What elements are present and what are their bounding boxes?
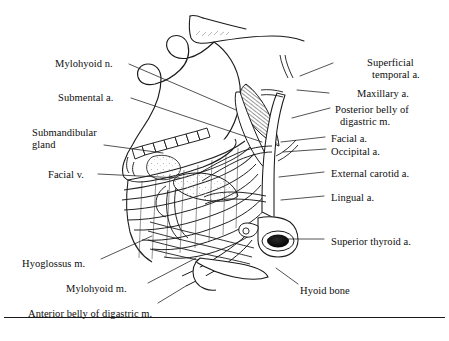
occipital-artery xyxy=(276,140,298,161)
label-lingual-a: Lingual a. xyxy=(331,192,374,204)
label-hyoglossus-m: Hyoglossus m. xyxy=(22,258,85,270)
superior-thyroid-artery xyxy=(239,223,258,237)
leader-hyoid-bone xyxy=(276,268,298,284)
anatomical-figure: Mylohyoid n. Submental a. Submandibular … xyxy=(0,0,449,341)
hyoid-bone xyxy=(193,258,268,290)
tongue-base xyxy=(174,173,239,201)
skull-texture xyxy=(196,31,229,36)
label-submandibular-gland-line1: Submandibular xyxy=(32,127,97,139)
leader-facial-a xyxy=(281,137,325,142)
leader-anterior-belly-digastric xyxy=(158,286,186,303)
label-posterior-belly-digastric-line2: digastric m. xyxy=(340,116,390,128)
mandible-and-ramus xyxy=(133,35,240,144)
leader-external-carotid-a xyxy=(279,172,324,177)
carotid-artery-cut-end xyxy=(258,217,298,257)
label-superficial-temporal-a-line2: temporal a. xyxy=(372,69,420,81)
leader-lingual-a xyxy=(281,196,324,200)
label-submental-a: Submental a. xyxy=(58,92,113,104)
submandibular-gland xyxy=(147,155,181,179)
label-external-carotid-a: External carotid a. xyxy=(331,168,409,180)
leader-posterior-belly-digastric xyxy=(292,108,330,118)
label-facial-a: Facial a. xyxy=(331,133,367,145)
label-superficial-temporal-a-line1: Superficial xyxy=(367,57,414,69)
label-facial-v: Facial v. xyxy=(48,169,84,181)
leader-superficial-temporal-a xyxy=(300,63,333,76)
label-maxillary-a: Maxillary a. xyxy=(357,88,409,100)
label-occipital-a: Occipital a. xyxy=(331,146,380,158)
label-hyoid-bone: Hyoid bone xyxy=(300,285,350,297)
skull-outline xyxy=(189,16,304,44)
label-posterior-belly-digastric-line1: Posterior belly of xyxy=(335,104,409,116)
leader-maxillary-a xyxy=(297,90,329,93)
bottom-rule xyxy=(4,317,445,318)
superficial-temporal-artery xyxy=(280,55,293,78)
label-mylohyoid-n: Mylohyoid n. xyxy=(55,58,113,70)
leader-occipital-a xyxy=(283,149,326,152)
label-submandibular-gland-line2: gland xyxy=(32,139,56,151)
leader-mylohyoid-m xyxy=(148,258,196,283)
label-superior-thyroid-a: Superior thyroid a. xyxy=(331,236,411,248)
label-mylohyoid-m: Mylohyoid m. xyxy=(66,283,127,295)
